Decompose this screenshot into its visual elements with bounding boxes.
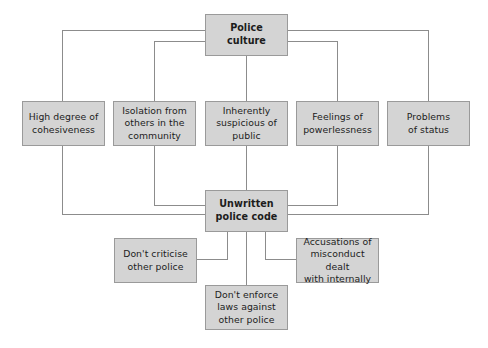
node-inherently-suspicious-of-public: Inherentlysuspicious ofpublic [205, 101, 288, 146]
edge-code-dont-criticise [197, 232, 228, 260]
edge-culture-powerlessness [288, 42, 338, 102]
node-high-degree-of-cohesiveness-label: High degree ofcohesiveness [26, 111, 101, 136]
node-isolation-from-others-label: Isolation fromothers in thecommunity [117, 105, 192, 142]
node-police-culture: Policeculture [205, 14, 288, 56]
edge-code-accusations [266, 232, 297, 260]
node-dont-enforce-laws-label: Don't enforcelaws againstother police [209, 289, 284, 326]
node-high-degree-of-cohesiveness: High degree ofcohesiveness [22, 101, 105, 146]
node-unwritten-police-code: Unwrittenpolice code [205, 190, 288, 232]
police-culture-diagram: Policeculture High degree ofcohesiveness… [0, 0, 488, 348]
node-accusations-of-misconduct: Accusations ofmisconduct dealtwith inter… [296, 238, 379, 283]
edge-powerlessness-code [288, 146, 338, 206]
edge-isolation-code [155, 146, 206, 206]
node-feelings-of-powerlessness: Feelings ofpowerlessness [296, 101, 379, 146]
node-accusations-of-misconduct-label: Accusations ofmisconduct dealtwith inter… [300, 236, 375, 285]
node-inherently-suspicious-of-public-label: Inherentlysuspicious ofpublic [209, 105, 284, 142]
edge-culture-status [288, 31, 429, 102]
edge-culture-isolation [155, 42, 206, 102]
node-unwritten-police-code-label: Unwrittenpolice code [209, 198, 284, 223]
node-problems-of-status-label: Problemsof status [391, 111, 466, 136]
node-police-culture-label: Policeculture [209, 22, 284, 47]
edge-culture-cohesiveness [63, 31, 206, 102]
node-dont-criticise-other-police-label: Don't criticiseother police [118, 248, 193, 273]
node-feelings-of-powerlessness-label: Feelings ofpowerlessness [300, 111, 375, 136]
node-problems-of-status: Problemsof status [387, 101, 470, 146]
edge-status-code [288, 146, 429, 215]
node-dont-enforce-laws: Don't enforcelaws againstother police [205, 285, 288, 330]
node-isolation-from-others: Isolation fromothers in thecommunity [113, 101, 196, 146]
edge-cohesiveness-code [63, 146, 206, 215]
node-dont-criticise-other-police: Don't criticiseother police [114, 238, 197, 283]
